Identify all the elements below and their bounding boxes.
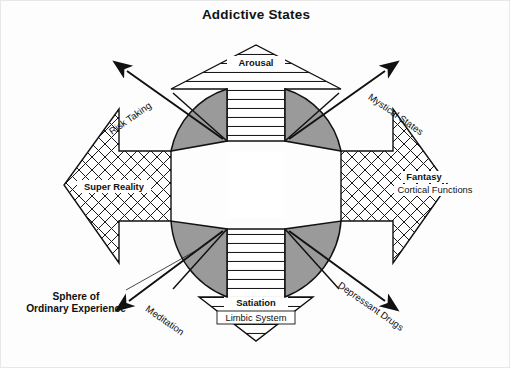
figure-frame: Addictive States Arousal Satiation Limbi… <box>0 0 510 368</box>
super-reality-label: Super Reality <box>84 181 145 192</box>
sphere-label-line2: Ordinary Experience <box>26 303 126 314</box>
quadrant-top-left <box>171 89 227 151</box>
limbic-system-label: Limbic System <box>226 312 287 323</box>
arousal-label: Arousal <box>239 57 274 68</box>
sphere-of-ordinary-experience-annotation: Sphere of Ordinary Experience <box>26 250 197 314</box>
page-title: Addictive States <box>202 7 310 22</box>
quadrant-bottom-left <box>171 221 227 297</box>
quadrant-top-right <box>285 89 341 151</box>
quadrant-bottom-right <box>285 221 341 297</box>
addictive-states-diagram: Addictive States Arousal Satiation Limbi… <box>1 1 510 368</box>
fantasy-arrow: Fantasy Cortical Functions <box>341 109 477 263</box>
center-void <box>228 152 284 218</box>
satiation-label: Satiation <box>236 297 276 308</box>
depressant-drugs-label: Depressant Drugs <box>336 279 406 332</box>
cortical-functions-label: Cortical Functions <box>397 184 472 195</box>
sphere-label-line1: Sphere of <box>53 291 101 302</box>
fantasy-label: Fantasy <box>406 171 442 182</box>
meditation-label: Meditation <box>144 303 187 337</box>
